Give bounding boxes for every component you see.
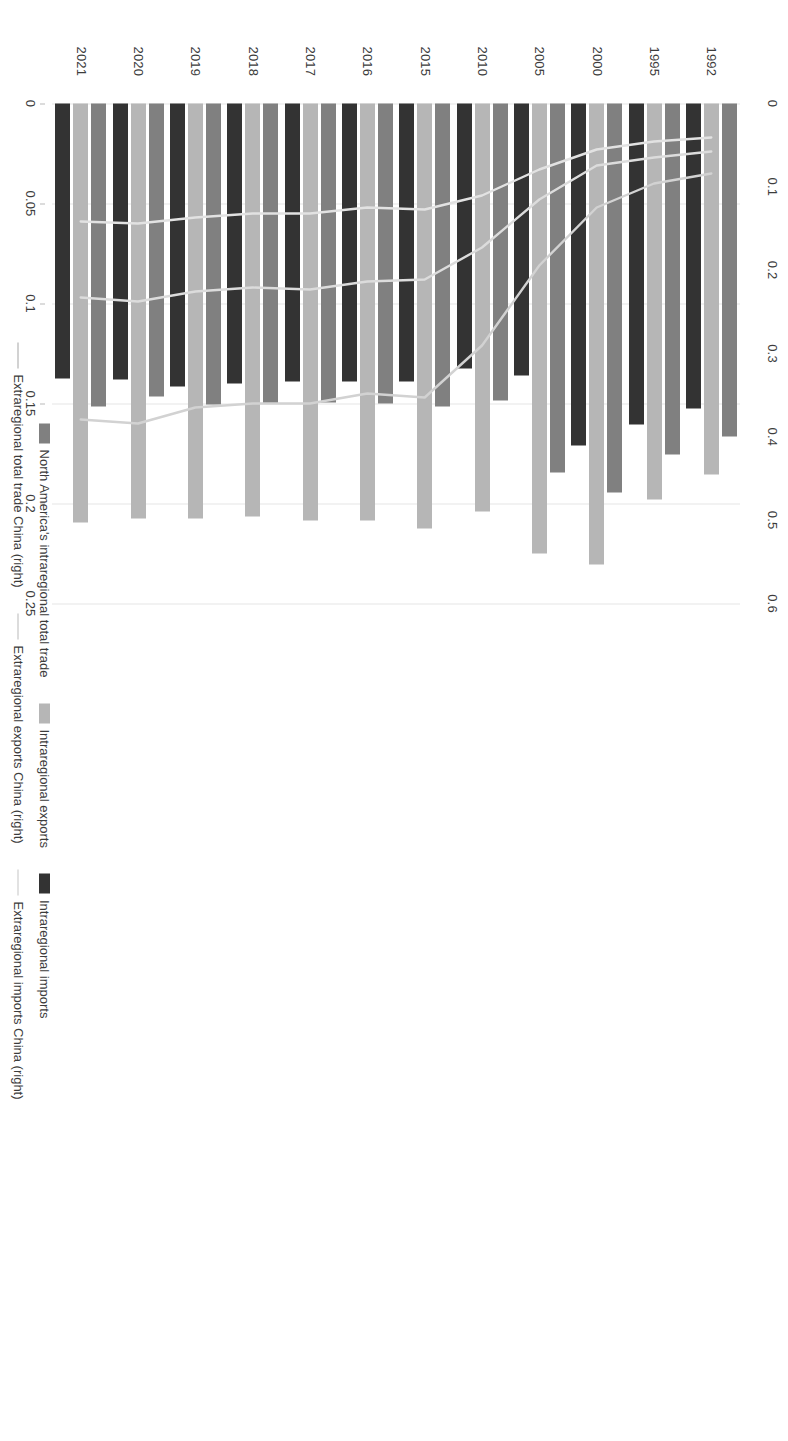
bar-group: 2021 <box>52 0 109 1441</box>
bar-group: 2020 <box>109 0 166 1441</box>
category-label: 2016 <box>360 46 375 76</box>
bar-2 <box>170 103 185 386</box>
bar-2 <box>227 103 242 383</box>
primary-axis-tick: 0.4 <box>765 427 780 446</box>
bar-2 <box>686 103 701 408</box>
bar-0 <box>378 103 393 403</box>
bar-group: 2000 <box>568 0 625 1441</box>
bar-group: 2017 <box>281 0 338 1441</box>
category-label: 2010 <box>475 46 490 76</box>
bar-1 <box>647 103 662 499</box>
bar-2 <box>514 103 529 375</box>
bar-2 <box>285 103 300 381</box>
bar-0 <box>493 103 508 400</box>
legend-label: North America's intraregional total trad… <box>37 449 52 677</box>
category-label: 2020 <box>131 46 146 76</box>
bar-group: 2005 <box>511 0 568 1441</box>
chart-legend: North America's intraregional total trad… <box>0 0 52 1441</box>
bar-1 <box>704 103 719 474</box>
bar-group: 2018 <box>224 0 281 1441</box>
legend-line-swatch-icon <box>18 613 20 639</box>
category-label: 2017 <box>303 46 318 76</box>
bar-2 <box>342 103 357 381</box>
primary-axis-top: 00.10.20.30.40.50.6 <box>754 0 780 1441</box>
bar-group: 2015 <box>396 0 453 1441</box>
legend-item[interactable]: North America's intraregional total trad… <box>37 423 52 677</box>
bar-1 <box>475 103 490 511</box>
bar-group: 2016 <box>339 0 396 1441</box>
legend-item[interactable]: Extraregional exports China (right) <box>11 613 26 843</box>
bar-1 <box>417 103 432 528</box>
bar-2 <box>399 103 414 381</box>
bar-group: 2010 <box>453 0 510 1441</box>
bars-layer: 1992199520002005201020152016201720182019… <box>52 0 740 1441</box>
bar-0 <box>91 103 106 406</box>
legend-bar-swatch-icon <box>39 423 50 443</box>
legend-line-swatch-icon <box>18 869 20 895</box>
bar-1 <box>589 103 604 564</box>
legend-item[interactable]: Intraregional imports <box>37 873 52 1018</box>
legend-label: Intraregional exports <box>37 729 52 848</box>
legend-item[interactable]: Extraregional imports China (right) <box>11 869 26 1099</box>
legend-label: Extraregional total trade China (right) <box>11 374 26 587</box>
bar-0 <box>435 103 450 406</box>
bar-group: 1992 <box>683 0 740 1441</box>
category-label: 2005 <box>532 46 547 76</box>
category-label: 2000 <box>589 46 604 76</box>
bar-2 <box>571 103 586 445</box>
bar-2 <box>629 103 644 424</box>
legend-label: Intraregional imports <box>37 899 52 1018</box>
bar-2 <box>113 103 128 379</box>
bar-group: 2019 <box>167 0 224 1441</box>
primary-axis-tick: 0.1 <box>765 177 780 196</box>
bar-1 <box>131 103 146 518</box>
category-label: 2021 <box>73 46 88 76</box>
bar-group: 1995 <box>625 0 682 1441</box>
legend-line-swatch-icon <box>18 342 20 368</box>
bar-0 <box>607 103 622 492</box>
rotated-chart-canvas: 00.10.20.30.40.50.6 19921995200020052010… <box>0 0 788 1441</box>
legend-item[interactable]: Extraregional total trade China (right) <box>11 342 26 587</box>
bar-2 <box>457 103 472 368</box>
legend-bar-swatch-icon <box>39 873 50 893</box>
primary-axis-tick: 0.2 <box>765 260 780 279</box>
primary-axis-tick: 0 <box>765 99 780 106</box>
primary-axis-tick: 0.3 <box>765 344 780 363</box>
bar-0 <box>550 103 565 472</box>
bar-1 <box>188 103 203 518</box>
bar-0 <box>263 103 278 403</box>
bar-0 <box>149 103 164 396</box>
bar-0 <box>206 103 221 404</box>
bar-0 <box>665 103 680 454</box>
category-label: 2019 <box>188 46 203 76</box>
bar-1 <box>245 103 260 516</box>
legend-bar-swatch-icon <box>39 703 50 723</box>
bar-1 <box>532 103 547 553</box>
category-label: 2015 <box>417 46 432 76</box>
legend-item[interactable]: Intraregional exports <box>37 703 52 848</box>
bar-2 <box>55 103 70 378</box>
category-label: 1992 <box>704 46 719 76</box>
bar-1 <box>303 103 318 520</box>
legend-row-lines: Extraregional total trade China (right)E… <box>11 0 26 1441</box>
chart-plot-frame: 00.10.20.30.40.50.6 19921995200020052010… <box>0 0 788 1441</box>
legend-label: Extraregional imports China (right) <box>11 901 26 1099</box>
primary-axis-tick: 0.6 <box>765 594 780 613</box>
category-label: 1995 <box>647 46 662 76</box>
bar-1 <box>73 103 88 522</box>
primary-axis-tick: 0.5 <box>765 510 780 529</box>
legend-row-bars: North America's intraregional total trad… <box>37 0 52 1441</box>
legend-label: Extraregional exports China (right) <box>11 645 26 843</box>
bar-0 <box>321 103 336 402</box>
bar-1 <box>360 103 375 520</box>
category-label: 2018 <box>245 46 260 76</box>
bar-0 <box>722 103 737 436</box>
